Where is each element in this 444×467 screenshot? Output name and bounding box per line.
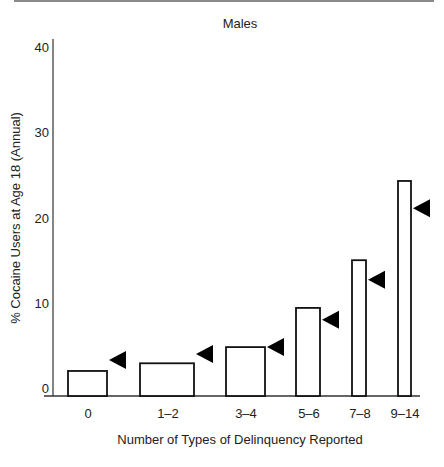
marker-arrow-icon xyxy=(368,271,385,289)
y-tick-label: 40 xyxy=(35,40,49,55)
bar-3–4 xyxy=(226,347,265,396)
y-tick-label: 0 xyxy=(42,381,49,396)
x-tick-label: 3–4 xyxy=(235,406,257,421)
x-tick-label: 9–14 xyxy=(391,406,420,421)
x-axis: 01–23–45–67–89–14 xyxy=(44,396,420,421)
marker-arrow-icon xyxy=(196,345,213,363)
marker-arrow-icon xyxy=(322,311,339,329)
y-axis-label: % Cocaine Users at Age 18 (Annual) xyxy=(8,112,23,324)
markers-group xyxy=(109,199,430,369)
x-tick-label: 7–8 xyxy=(349,406,371,421)
x-axis-label: Number of Types of Delinquency Reported xyxy=(117,432,362,447)
y-axis: 010203040 xyxy=(35,39,53,396)
marker-arrow-icon xyxy=(109,351,126,369)
bar-chart: Males 010203040 01–23–45–67–89–14 % Coca… xyxy=(0,0,444,467)
bar-1–2 xyxy=(140,363,194,396)
y-tick-label: 10 xyxy=(35,296,49,311)
x-tick-label: 5–6 xyxy=(298,406,320,421)
marker-arrow-icon xyxy=(267,338,284,356)
bar-9–14 xyxy=(398,181,411,396)
bar-7–8 xyxy=(352,260,366,396)
y-tick-label: 30 xyxy=(35,125,49,140)
bar-0 xyxy=(68,371,107,396)
y-tick-label: 20 xyxy=(35,211,49,226)
chart-title: Males xyxy=(223,16,258,31)
bar-5–6 xyxy=(296,308,320,396)
x-tick-label: 1–2 xyxy=(157,406,179,421)
x-tick-label: 0 xyxy=(84,406,91,421)
marker-arrow-icon xyxy=(413,199,430,217)
